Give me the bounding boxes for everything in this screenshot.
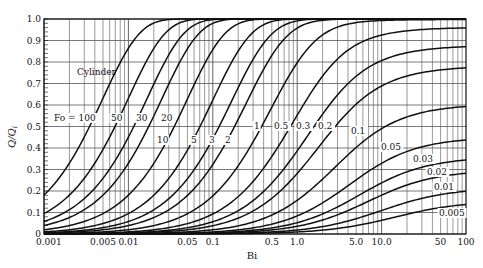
heisler-cylinder-chart: 00.10.20.30.40.50.60.70.80.91.0 0.0010.0…	[0, 0, 483, 268]
curve-label: 0.02	[427, 167, 447, 177]
cylinder-annotation: Cylinder	[77, 67, 117, 77]
y-tick-label: 0.3	[27, 165, 42, 175]
curve-label: 50	[111, 113, 123, 123]
curve-label: 2	[225, 135, 231, 145]
y-tick-label: 0.5	[27, 122, 42, 132]
y-tick-label: 0.4	[27, 143, 42, 153]
x-tick-label: 5.0	[349, 237, 364, 247]
curve-label: Fo = 100	[54, 113, 96, 123]
y-tick-label: 0.9	[27, 36, 42, 46]
x-tick-label: 0.05	[177, 237, 197, 247]
x-tick-label: 0.01	[118, 237, 138, 247]
x-tick-label: 50	[435, 237, 447, 247]
curve-label: 0.05	[381, 142, 401, 152]
curve-label: 0.1	[351, 126, 365, 136]
curve-label: 0.005	[439, 208, 465, 218]
y-tick-label: 1.0	[27, 14, 42, 24]
curve-label: 10	[157, 135, 169, 145]
x-tick-label: 0.5	[265, 237, 280, 247]
y-tick-label: 0.8	[27, 57, 42, 67]
x-axis-ticks: 0.0010.0050.010.050.10.51.05.010.050100	[36, 237, 475, 247]
y-tick-label: 0.1	[27, 208, 41, 218]
y-axis-title: Q/Qi	[6, 126, 19, 148]
x-tick-label: 10.0	[372, 237, 392, 247]
curve-label: 20	[161, 113, 173, 123]
y-tick-label: 0.2	[27, 186, 41, 196]
curve-label: 0.03	[413, 154, 433, 164]
curve-label: 0.01	[434, 182, 454, 192]
y-tick-label: 0.7	[27, 79, 42, 89]
x-tick-label: 0.1	[206, 237, 220, 247]
x-tick-label: 0.005	[90, 237, 116, 247]
curve-label: 30	[136, 113, 148, 123]
curve-label: 3	[209, 135, 215, 145]
curve-fo-100	[44, 19, 466, 195]
y-axis-title-main: Q/Q	[6, 128, 17, 148]
curve-label: 0.3	[296, 121, 311, 131]
x-tick-label: 100	[457, 237, 474, 247]
y-axis-ticks: 00.10.20.30.40.50.60.70.80.91.0	[27, 14, 42, 239]
x-tick-label: 1.0	[290, 237, 305, 247]
curve-label: 0.5	[274, 121, 289, 131]
y-tick-label: 0.6	[27, 100, 42, 110]
x-axis-title: Bi	[247, 250, 258, 261]
svg-text:Q/Qi: Q/Qi	[6, 126, 19, 148]
y-axis-title-sub: i	[11, 126, 19, 128]
curve-label: 5	[191, 135, 197, 145]
curve-label: 1	[254, 121, 260, 131]
x-tick-label: 0.001	[36, 237, 62, 247]
curve-label: 0.2	[318, 121, 332, 131]
curve-fo-50	[44, 19, 466, 214]
